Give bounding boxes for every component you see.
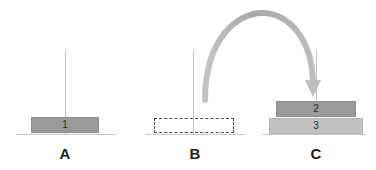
- block-1-label: 1: [62, 120, 68, 130]
- ground-line-c: [262, 134, 366, 135]
- block-3-label: 3: [313, 121, 319, 131]
- scenario-caption-c: C: [296, 146, 336, 161]
- block-ghost-b: [154, 118, 234, 133]
- ground-line-b: [145, 134, 245, 135]
- scenario-caption-a: A: [45, 146, 85, 161]
- block-2: 2: [276, 101, 356, 117]
- clipped-header-text: [2, 0, 98, 5]
- block-2-label: 2: [313, 104, 319, 114]
- arrow-arc: [205, 13, 313, 100]
- diagram-canvas: 1 A B 2 3 C: [0, 0, 376, 170]
- arrow-head: [305, 80, 321, 97]
- block-1: 1: [31, 117, 99, 133]
- scenario-caption-b: B: [175, 146, 215, 161]
- block-3: 3: [269, 118, 363, 134]
- ground-line-a: [16, 134, 116, 135]
